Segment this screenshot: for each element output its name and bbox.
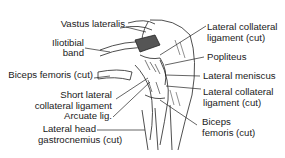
label-lateral-head-line2: gastrocnemius (cut) (38, 135, 122, 146)
label-lcl-top-line1: Lateral collateral (207, 22, 277, 33)
label-lateral-head-line1: Lateral head (20, 124, 96, 135)
label-popliteus: Popliteus (207, 52, 246, 63)
label-biceps-femoris-left: Biceps femoris (cut) (0, 70, 93, 81)
label-vastus-lateralis: Vastus lateralis (40, 19, 125, 30)
label-lcl-top-line2: ligament (cut) (207, 33, 265, 44)
label-iliotibial-band-line2: band (22, 48, 84, 59)
label-short-lcl-line1: Short lateral (20, 90, 112, 101)
label-lateral-meniscus: Lateral meniscus (203, 71, 276, 82)
label-lcl-bottom-line2: ligament (cut) (203, 98, 261, 109)
label-biceps-femoris-right-line1: Biceps (202, 117, 231, 128)
label-biceps-femoris-right-line2: femoris (cut) (202, 128, 255, 139)
label-lcl-bottom-line1: Lateral collateral (203, 87, 273, 98)
label-arcuate-lig: Arcuate lig. (40, 111, 112, 122)
